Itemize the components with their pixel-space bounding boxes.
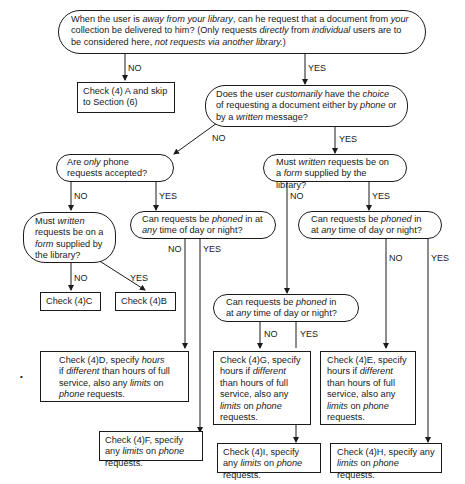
check-4i-emph: phone [277, 458, 303, 468]
check-4i-text: requests. [223, 470, 261, 480]
q2-text: of requesting a document either by [216, 100, 360, 110]
edge-label-yes: YES [339, 134, 357, 144]
check-4c-text: Check (4)C [46, 296, 92, 306]
q8-emph: phoned [296, 297, 327, 307]
question-customary-choice: Does the user customarily have the choic… [205, 85, 408, 127]
question-written-form-left: Must written requests be on a form suppl… [23, 212, 116, 263]
q8-text: Can requests be [226, 297, 296, 307]
q2-text: have the [322, 89, 362, 99]
check-4e-emph: limits [327, 401, 348, 411]
q6-emph: any [142, 225, 157, 235]
edge-label-yes: YES [300, 329, 318, 339]
action-check-4a: Check (4) A and skip to Section (6) [77, 82, 175, 113]
action-check-4f: Check (4)F, specify any limits on phone … [99, 431, 203, 461]
q4-emph: form [35, 239, 53, 249]
q2-emph: customarily [276, 89, 322, 99]
check-4e-emph: phone [363, 401, 389, 411]
check-4d-text: requests. [85, 389, 125, 399]
q2-emph: choice [363, 89, 390, 99]
action-check-4d: Check (4)D, specify hours if different t… [40, 351, 189, 402]
check-4d-emph: phone [59, 389, 85, 399]
check-4g-emph: different [253, 366, 286, 376]
edge-label-no: NO [290, 191, 304, 201]
q7-text: Can requests be [311, 214, 381, 224]
check-4d-emph: different [66, 366, 99, 376]
edge-label-no: NO [128, 63, 142, 73]
q1-emph: away from your library [143, 14, 233, 24]
action-check-4e: Check (4)E, specify hours if different t… [320, 351, 416, 425]
q4-text: Must [35, 216, 57, 226]
check-4h-emph: limits [337, 458, 358, 468]
check-4g-text: requests. [220, 412, 258, 422]
edge-label-no: NO [389, 253, 403, 263]
q2-text: message? [263, 112, 308, 122]
q1-emph: not requests via another library. [155, 37, 283, 47]
q7-emph: phoned [381, 214, 412, 224]
question-away-from-library: When the user is away from your library,… [58, 10, 426, 54]
q1-text: collection be delivered to him? (Only re… [71, 25, 259, 35]
check-4e-emph: different [360, 366, 393, 376]
q5-emph: written [298, 157, 325, 167]
edge-label-no: NO [212, 133, 226, 143]
check-4i-text: on [261, 458, 276, 468]
check-4d-text: Check (4)D, specify [59, 355, 142, 365]
check-4e-text: on [348, 401, 363, 411]
q6-text: Can requests be [142, 214, 212, 224]
edge-label-yes: YES [308, 63, 326, 73]
action-check-4c: Check (4)C [40, 292, 101, 311]
q3-emph: only [84, 157, 101, 167]
q7-emph: any [321, 225, 336, 235]
check-4g-emph: limits [220, 401, 241, 411]
edge-label-no: NO [168, 244, 182, 254]
edge-label-no: NO [264, 329, 278, 339]
action-check-4b: Check (4)B [115, 292, 176, 311]
q2-emph: phone [360, 100, 386, 110]
q1-text: , can he request that a document from [233, 14, 391, 24]
q1-text: When the user is [71, 14, 143, 24]
check-4g-emph: phone [256, 401, 282, 411]
check-4a-text: Check (4) A and skip to Section (6) [83, 86, 167, 107]
edge-label-no: NO [74, 273, 88, 283]
check-4h-text: on [358, 458, 373, 468]
action-check-4g: Check (4)G, specify hours if different t… [213, 351, 311, 425]
edge-label-yes: YES [431, 253, 449, 263]
q1-text: ) [283, 37, 286, 47]
check-4e-text: than hours of full service, also any [327, 378, 395, 399]
q6-text: in at [243, 214, 263, 224]
q8-text: time of day or night? [251, 308, 337, 318]
action-check-4i: Check (4)I, specify any limits on phone … [217, 443, 321, 473]
q2-text: Does the user [216, 89, 276, 99]
check-4f-emph: phone [159, 446, 185, 456]
check-4e-text: requests. [327, 412, 365, 422]
q3-text: Are [67, 157, 84, 167]
q7-text: time of day or night? [336, 225, 422, 235]
q6-text: time of day or night? [157, 225, 243, 235]
check-4d-emph: limits [130, 378, 151, 388]
q1-text: from [289, 25, 312, 35]
action-check-4h: Check (4)H, specify any limits on phone … [330, 443, 442, 473]
check-4b-text: Check (4)B [121, 296, 167, 306]
q8-emph: any [236, 308, 251, 318]
edge-label-yes: YES [372, 191, 390, 201]
q5-emph: form [284, 168, 302, 178]
q1-emph: individual [312, 25, 350, 35]
question-phoned-any-time-left: Can requests be phoned in at any time of… [130, 211, 276, 239]
check-4d-emph: hours [142, 355, 165, 365]
check-4f-text: requests. [105, 458, 143, 468]
q2-emph: written [236, 112, 263, 122]
edge-label-yes: YES [159, 191, 177, 201]
question-written-form-right: Must written requests be on a form suppl… [263, 154, 407, 182]
check-4f-emph: limits [122, 446, 143, 456]
q4-text: requests be on a [35, 227, 103, 237]
q1-emph: directly [259, 25, 288, 35]
question-only-phone: Are only phone requests accepted? [56, 154, 174, 182]
q4-emph: written [57, 216, 84, 226]
check-4d-text: on [151, 378, 164, 388]
check-4i-emph: limits [240, 458, 261, 468]
check-4h-text: Check (4)H, specify any [337, 447, 435, 457]
edge-label-yes: YES [203, 244, 221, 254]
edge-label-yes: YES [130, 273, 148, 283]
edge-label-no: NO [74, 191, 88, 201]
q1-emph: your [391, 14, 409, 24]
question-phoned-any-time-right: Can requests be phoned in at any time of… [298, 211, 442, 239]
